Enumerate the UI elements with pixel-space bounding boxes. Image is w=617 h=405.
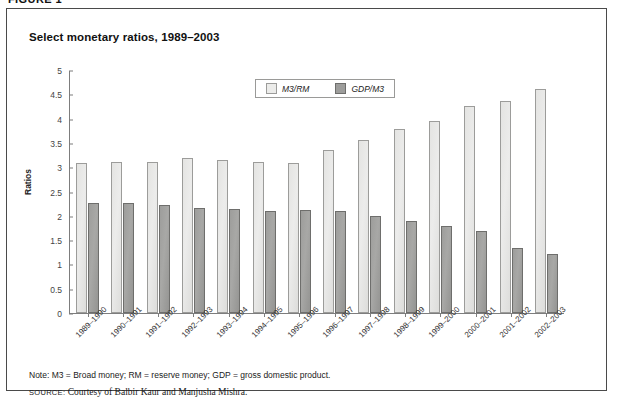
- x-label-cell: 1990–1991: [105, 317, 140, 365]
- x-label-cell: 1996–1997: [318, 317, 353, 365]
- bar-m3-rm[interactable]: [147, 162, 158, 313]
- legend-label: M3/RM: [282, 84, 309, 94]
- x-label-cell: 1995–1996: [282, 317, 317, 365]
- bar-group: [529, 71, 564, 313]
- bar-gdp-m3[interactable]: [335, 211, 346, 313]
- bar-m3-rm[interactable]: [111, 162, 122, 313]
- legend-item-1: GDP/M3: [335, 83, 384, 94]
- y-tick-label: 0.5: [50, 285, 69, 295]
- bar-group: [493, 71, 528, 313]
- bar-gdp-m3[interactable]: [265, 211, 276, 313]
- y-tick-label: 4.5: [50, 90, 69, 100]
- source-prefix: source:: [29, 388, 65, 397]
- y-tick-label: 3.5: [50, 139, 69, 149]
- figure-tag: FIGURE 1: [8, 0, 62, 5]
- bar-group: [458, 71, 493, 313]
- x-label-cell: 2000–2001: [459, 317, 494, 365]
- x-label-cell: 1997–1998: [353, 317, 388, 365]
- bar-m3-rm[interactable]: [217, 160, 228, 313]
- bar-group: [141, 71, 176, 313]
- x-label-cell: 1993–1994: [211, 317, 246, 365]
- bar-gdp-m3[interactable]: [441, 226, 452, 313]
- bar-groups: [70, 71, 564, 313]
- y-tick-label: 1: [57, 260, 69, 270]
- x-label-cell: 1989–1990: [70, 317, 105, 365]
- y-tick-label: 5: [57, 66, 69, 76]
- bar-m3-rm[interactable]: [288, 163, 299, 313]
- bar-m3-rm[interactable]: [76, 163, 87, 313]
- bar-gdp-m3[interactable]: [406, 221, 417, 313]
- x-label-cell: 1999–2000: [424, 317, 459, 365]
- bar-gdp-m3[interactable]: [300, 210, 311, 313]
- bar-m3-rm[interactable]: [182, 158, 193, 313]
- x-label-cell: 2002–2003: [530, 317, 565, 365]
- x-axis-labels: 1989–19901990–19911991–19921992–19931993…: [70, 317, 565, 365]
- x-label-cell: 2001–2002: [494, 317, 529, 365]
- y-tick-mark: [69, 314, 73, 315]
- bar-gdp-m3[interactable]: [194, 208, 205, 313]
- bar-m3-rm[interactable]: [323, 150, 334, 313]
- bar-gdp-m3[interactable]: [512, 248, 523, 313]
- source-text: Courtesy of Balbir Kaur and Manjusha Mis…: [68, 387, 248, 397]
- legend-swatch-icon: [266, 83, 277, 94]
- x-label-cell: 1992–1993: [176, 317, 211, 365]
- y-tick-label: 2: [57, 212, 69, 222]
- legend-label: GDP/M3: [351, 84, 384, 94]
- bar-group: [211, 71, 246, 313]
- bar-group: [282, 71, 317, 313]
- bar-gdp-m3[interactable]: [547, 254, 558, 313]
- x-label-cell: 1994–1995: [247, 317, 282, 365]
- bar-m3-rm[interactable]: [500, 101, 511, 313]
- bar-gdp-m3[interactable]: [370, 216, 381, 313]
- bar-group: [176, 71, 211, 313]
- bar-group: [70, 71, 105, 313]
- bar-m3-rm[interactable]: [535, 89, 546, 313]
- bar-m3-rm[interactable]: [394, 129, 405, 313]
- bar-group: [105, 71, 140, 313]
- page-title: Select monetary ratios, 1989–2003: [29, 31, 220, 43]
- figure-frame: Select monetary ratios, 1989–2003 Ratios…: [6, 8, 607, 391]
- y-tick-label: 3: [57, 163, 69, 173]
- bar-gdp-m3[interactable]: [476, 231, 487, 313]
- legend-item-0: M3/RM: [266, 83, 309, 94]
- y-tick-label: 2.5: [50, 188, 69, 198]
- bar-group: [246, 71, 281, 313]
- bar-m3-rm[interactable]: [253, 162, 264, 313]
- y-tick-label: 0: [57, 309, 69, 319]
- y-axis-label: Ratios: [23, 169, 33, 195]
- x-label-cell: 1991–1992: [141, 317, 176, 365]
- chart-note: Note: M3 = Broad money; RM = reserve mon…: [29, 370, 330, 380]
- y-tick-label: 1.5: [50, 236, 69, 246]
- y-tick-label: 4: [57, 115, 69, 125]
- chart-plot-area: 54.543.532.521.510.50: [69, 71, 564, 314]
- bar-gdp-m3[interactable]: [88, 203, 99, 313]
- bar-gdp-m3[interactable]: [123, 203, 134, 313]
- chart-legend: M3/RM GDP/M3: [255, 79, 395, 98]
- bar-group: [388, 71, 423, 313]
- bar-group: [317, 71, 352, 313]
- chart-source: source: Courtesy of Balbir Kaur and Manj…: [29, 387, 247, 397]
- bar-m3-rm[interactable]: [429, 121, 440, 313]
- legend-swatch-icon: [335, 83, 346, 94]
- bar-m3-rm[interactable]: [464, 106, 475, 313]
- bar-group: [423, 71, 458, 313]
- x-label-cell: 1998–1999: [388, 317, 423, 365]
- bar-group: [352, 71, 387, 313]
- bar-gdp-m3[interactable]: [229, 209, 240, 313]
- bar-gdp-m3[interactable]: [159, 205, 170, 313]
- bar-m3-rm[interactable]: [358, 140, 369, 313]
